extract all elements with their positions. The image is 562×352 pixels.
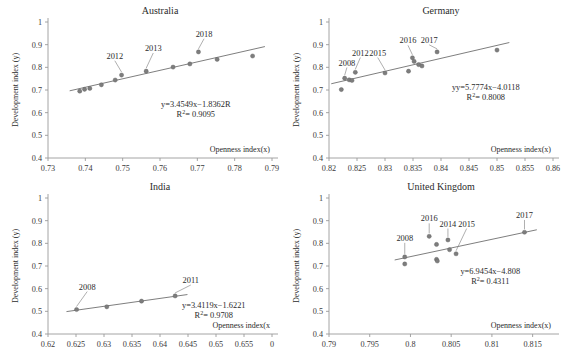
x-tick-label: 0.82	[322, 164, 336, 173]
data-point	[403, 255, 407, 259]
data-point	[434, 242, 438, 246]
data-point	[403, 262, 407, 266]
annotation-leader-line	[345, 68, 347, 76]
data-point	[435, 259, 439, 263]
x-tick-label: 0.655	[235, 340, 253, 349]
y-axis-label: Development index (y)	[11, 53, 20, 128]
data-point	[420, 64, 424, 68]
chart-panel-germany: Germany0.40.50.60.70.80.910.820.8250.830…	[281, 0, 562, 176]
x-tick-label: 0.65	[209, 340, 223, 349]
chart-panel-australia: Australia0.40.50.60.70.80.910.730.740.75…	[0, 0, 281, 176]
y-tick-label: 0.5	[32, 307, 42, 316]
x-tick-label: 0.85	[490, 164, 504, 173]
data-point	[99, 83, 103, 87]
data-point	[350, 78, 354, 82]
x-tick-label: 0.8	[405, 340, 415, 349]
x-tick-label: 0.63	[97, 340, 111, 349]
data-point	[171, 65, 175, 69]
x-tick-label: 0.81	[485, 340, 499, 349]
data-point	[119, 73, 123, 77]
x-tick-label: 0.75	[116, 164, 130, 173]
annotation-leader-line	[198, 39, 204, 49]
x-tick-label: 0.83	[378, 164, 392, 173]
data-point	[173, 294, 177, 298]
data-point	[188, 62, 192, 66]
y-tick-label: 0.5	[313, 131, 323, 140]
r-squared-value: R2= 0.4311	[471, 276, 509, 286]
x-tick-label: 0.855	[516, 164, 534, 173]
annotation-label-2015: 2015	[369, 49, 386, 58]
regression-equation: y=6.9454x−4.808	[460, 267, 520, 276]
annotation-label-2014: 2014	[440, 220, 458, 229]
data-point	[105, 305, 109, 309]
regression-equation: y=3.4549x−1.8362R	[161, 100, 231, 109]
y-tick-label: 0.4	[313, 330, 323, 339]
data-point	[139, 299, 143, 303]
y-tick-label: 0.7	[32, 262, 42, 271]
annotation-label-2012: 2012	[352, 49, 369, 58]
annotation-label-2008: 2008	[79, 283, 96, 292]
y-tick-label: 0.8	[313, 63, 323, 72]
chart-title-india: India	[150, 181, 171, 192]
y-tick-label: 0.8	[313, 239, 323, 248]
y-tick-label: 1	[38, 194, 42, 203]
annotation-leader-line	[355, 58, 360, 70]
annotation-label-2018: 2018	[196, 30, 213, 39]
data-point	[435, 50, 439, 54]
x-tick-label: 0.825	[348, 164, 366, 173]
axis-lines	[329, 18, 559, 158]
chart-title-germany: Germany	[422, 5, 459, 16]
x-tick-label: 0.645	[179, 340, 197, 349]
x-tick-label: 0.635	[123, 340, 141, 349]
x-tick-label: 0	[270, 340, 274, 349]
annotation-label-2012: 2012	[106, 52, 123, 61]
annotation-label-2015: 2015	[458, 220, 475, 229]
trendline	[395, 230, 537, 260]
y-tick-label: 0.4	[32, 330, 42, 339]
annotation-label-2017: 2017	[516, 211, 533, 220]
x-tick-label: 0.62	[41, 340, 55, 349]
y-tick-label: 0.7	[313, 86, 323, 95]
trendline	[70, 47, 265, 91]
x-tick-label: 0.79	[265, 164, 279, 173]
data-point	[522, 230, 526, 234]
y-axis-label: Development index (y)	[292, 229, 301, 304]
x-tick-label: 0.74	[78, 164, 92, 173]
annotation-label-2016: 2016	[421, 214, 438, 223]
y-tick-label: 0.4	[32, 154, 42, 163]
data-point	[82, 87, 86, 91]
y-tick-label: 0.5	[32, 131, 42, 140]
data-point	[196, 50, 200, 54]
data-point	[446, 238, 450, 242]
y-tick-label: 1	[38, 18, 42, 27]
data-point	[412, 59, 416, 63]
x-tick-label: 0.73	[41, 164, 55, 173]
trendline	[66, 295, 187, 312]
y-tick-label: 0.6	[313, 109, 323, 118]
x-tick-label: 0.86	[546, 164, 560, 173]
x-tick-label: 0.76	[153, 164, 167, 173]
y-tick-label: 0.6	[313, 285, 323, 294]
x-tick-label: 0.84	[434, 164, 448, 173]
y-tick-label: 0.8	[32, 239, 42, 248]
data-point	[339, 87, 343, 91]
annotation-leader-line	[175, 285, 191, 293]
data-point	[343, 76, 347, 80]
annotation-label-2017: 2017	[421, 36, 438, 45]
annotation-leader-line	[146, 53, 153, 68]
x-tick-label: 0.795	[361, 340, 379, 349]
y-tick-label: 0.9	[32, 217, 42, 226]
data-point	[353, 70, 357, 74]
x-tick-label: 0.845	[460, 164, 478, 173]
y-tick-label: 1	[319, 18, 323, 27]
y-tick-label: 0.8	[32, 63, 42, 72]
x-tick-label: 0.835	[404, 164, 422, 173]
data-point	[78, 89, 82, 93]
r-squared-value: R2= 0.8008	[467, 92, 505, 102]
chart-panel-united-kingdom: United Kingdom0.40.50.60.70.80.910.790.7…	[281, 176, 562, 352]
x-axis-label: Openness index(x)	[210, 145, 271, 154]
x-tick-label: 0.64	[153, 340, 167, 349]
y-tick-label: 0.4	[313, 154, 323, 163]
y-axis-label: Development index (y)	[11, 229, 20, 304]
data-point	[74, 307, 78, 311]
